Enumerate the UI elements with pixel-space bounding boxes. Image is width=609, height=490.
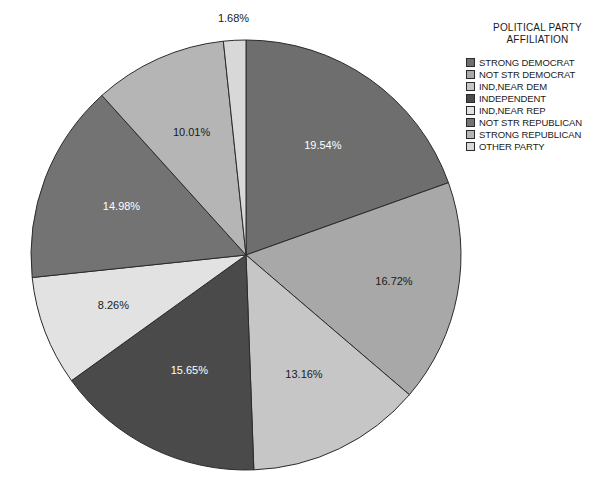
legend-item: IND,NEAR REP — [466, 104, 609, 116]
legend-title: POLITICAL PARTY AFFILIATION — [466, 22, 609, 46]
legend-swatch-icon — [466, 130, 475, 139]
legend-item-label: IND,NEAR REP — [479, 105, 545, 116]
legend: POLITICAL PARTY AFFILIATION STRONG DEMOC… — [466, 22, 609, 152]
legend-item-label: NOT STR DEMOCRAT — [479, 69, 575, 80]
legend-item-label: IND,NEAR DEM — [479, 81, 547, 92]
legend-swatch-icon — [466, 82, 475, 91]
legend-item-label: STRONG REPUBLICAN — [479, 129, 581, 140]
pie-slice-label: 19.54% — [304, 139, 342, 151]
pie-slice-label: 1.68% — [218, 12, 249, 24]
legend-item-label: OTHER PARTY — [479, 141, 545, 152]
legend-swatch-icon — [466, 106, 475, 115]
pie-slice-group — [31, 40, 461, 470]
legend-swatch-icon — [466, 70, 475, 79]
pie-slice-label: 16.72% — [375, 275, 413, 287]
pie-slice-label: 13.16% — [285, 368, 323, 380]
legend-swatch-icon — [466, 142, 475, 151]
pie-chart-svg: 19.54%16.72%13.16%15.65%8.26%14.98%10.01… — [0, 0, 470, 490]
pie-chart-area: 19.54%16.72%13.16%15.65%8.26%14.98%10.01… — [0, 0, 470, 490]
legend-swatch-icon — [466, 118, 475, 127]
legend-item: OTHER PARTY — [466, 140, 609, 152]
pie-slice-label: 14.98% — [103, 200, 141, 212]
legend-items: STRONG DEMOCRATNOT STR DEMOCRATIND,NEAR … — [466, 56, 609, 152]
pie-slice-label: 15.65% — [171, 364, 209, 376]
legend-item: STRONG DEMOCRAT — [466, 56, 609, 68]
legend-item: NOT STR REPUBLICAN — [466, 116, 609, 128]
legend-item: STRONG REPUBLICAN — [466, 128, 609, 140]
legend-item: IND,NEAR DEM — [466, 80, 609, 92]
legend-item: NOT STR DEMOCRAT — [466, 68, 609, 80]
legend-title-line-2: AFFILIATION — [466, 34, 609, 46]
legend-swatch-icon — [466, 94, 475, 103]
chart-page: 19.54%16.72%13.16%15.65%8.26%14.98%10.01… — [0, 0, 609, 490]
pie-slice-label: 10.01% — [173, 126, 211, 138]
legend-item-label: NOT STR REPUBLICAN — [479, 117, 582, 128]
legend-item-label: INDEPENDENT — [479, 93, 546, 104]
legend-title-line-1: POLITICAL PARTY — [466, 22, 609, 34]
legend-item-label: STRONG DEMOCRAT — [479, 57, 574, 68]
legend-item: INDEPENDENT — [466, 92, 609, 104]
pie-slice-label: 8.26% — [98, 299, 129, 311]
legend-swatch-icon — [466, 58, 475, 67]
